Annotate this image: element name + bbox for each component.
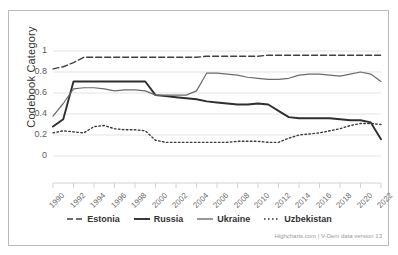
legend-item-russia[interactable]: Russia	[134, 214, 184, 224]
credits-label: Highcharts.com | V-Dem data version 13	[274, 233, 382, 239]
series-line-russia[interactable]	[53, 81, 381, 139]
legend-key-icon	[197, 215, 213, 223]
legend-item-label: Ukraine	[217, 214, 250, 224]
plot-area	[9, 11, 390, 245]
legend-key-icon	[264, 215, 280, 223]
series-line-ukraine[interactable]	[53, 72, 381, 116]
legend-item-uzbekistan[interactable]: Uzbekistan	[264, 214, 332, 224]
legend-item-label: Estonia	[87, 214, 120, 224]
legend-item-estonia[interactable]: Estonia	[67, 214, 120, 224]
series-line-estonia[interactable]	[53, 55, 381, 69]
series-line-uzbekistan[interactable]	[53, 123, 381, 142]
chart-frame: Codebook Category 00.20.40.60.81 1990199…	[8, 10, 389, 246]
chart-legend: EstoniaRussiaUkraineUzbekistan	[9, 214, 390, 224]
legend-item-label: Russia	[154, 214, 184, 224]
chart-container: Codebook Category 00.20.40.60.81 1990199…	[0, 0, 398, 255]
legend-item-label: Uzbekistan	[284, 214, 332, 224]
legend-key-icon	[67, 215, 83, 223]
legend-key-icon	[134, 215, 150, 223]
legend-item-ukraine[interactable]: Ukraine	[197, 214, 250, 224]
